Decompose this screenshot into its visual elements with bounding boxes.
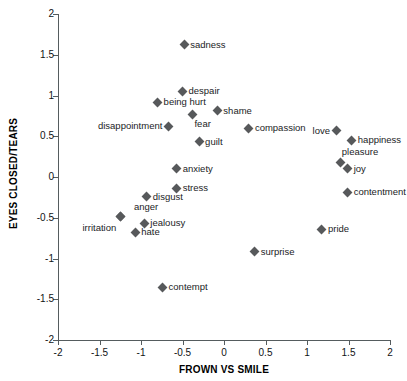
data-point-label: despair — [189, 86, 220, 96]
x-tick-mark — [307, 340, 308, 345]
x-tick-mark — [183, 340, 184, 345]
x-tick-label: 0 — [204, 348, 244, 358]
data-point-marker — [130, 227, 140, 237]
data-point-marker — [153, 97, 163, 107]
data-point-label: sadness — [190, 40, 225, 50]
y-tick-label: 1.5 — [20, 50, 54, 60]
x-tick-mark — [349, 340, 350, 345]
data-point-marker — [343, 188, 353, 198]
data-point-label: happiness — [358, 135, 401, 145]
y-tick-label: 2 — [20, 9, 54, 19]
data-point-marker — [115, 212, 125, 222]
x-tick-label: 1.5 — [329, 348, 369, 358]
data-point-label: anger — [134, 202, 158, 212]
x-axis-title: FROWN VS SMILE — [58, 364, 390, 375]
data-point-marker — [317, 224, 327, 234]
x-tick-label: -1 — [121, 348, 161, 358]
x-tick-mark — [390, 340, 391, 345]
data-point-marker — [172, 164, 182, 174]
data-point-label: being hurt — [164, 97, 206, 107]
data-point-label: irritation — [82, 223, 116, 233]
x-tick-mark — [141, 340, 142, 345]
x-tick-mark — [266, 340, 267, 345]
data-point-marker — [343, 164, 353, 174]
y-tick-label-wrap: -1 — [10, 254, 54, 264]
data-point-label: disappointment — [98, 121, 162, 131]
x-tick-mark — [58, 340, 59, 345]
data-point-label: shame — [223, 106, 252, 116]
data-point-label: pleasure — [342, 147, 378, 157]
y-tick-label: -2 — [20, 335, 54, 345]
y-tick-label-wrap: 2 — [10, 9, 54, 19]
data-point-marker — [163, 122, 173, 132]
data-point-marker — [250, 247, 260, 257]
data-point-marker — [178, 86, 188, 96]
data-point-marker — [179, 40, 189, 50]
scatter-plot: 21.510.50-0.5-1-1.5-2-2-1.5-1-0.500.511.… — [0, 0, 407, 381]
x-tick-mark — [224, 340, 225, 345]
data-point-label: guilt — [205, 137, 222, 147]
y-tick-label-wrap: 1.5 — [10, 50, 54, 60]
data-point-marker — [331, 126, 341, 136]
y-tick-label-wrap: -1.5 — [10, 294, 54, 304]
data-point-marker — [212, 106, 222, 116]
y-tick-label: -0.5 — [20, 213, 54, 223]
y-axis-title: EYES CLOSED/TEARS — [8, 99, 19, 249]
data-point-marker — [347, 135, 357, 145]
data-point-marker — [158, 282, 168, 292]
data-point-label: stress — [183, 183, 208, 193]
x-tick-label: 0.5 — [246, 348, 286, 358]
data-point-label: joy — [354, 164, 366, 174]
data-point-label: anxiety — [183, 164, 213, 174]
y-tick-label: -1.5 — [20, 294, 54, 304]
x-tick-label: -1.5 — [80, 348, 120, 358]
x-tick-mark — [100, 340, 101, 345]
data-point-label: compassion — [255, 123, 306, 133]
y-tick-label-wrap: -2 — [10, 335, 54, 345]
data-point-label: contempt — [169, 282, 208, 292]
data-point-label: surprise — [261, 247, 295, 257]
x-tick-label: -2 — [38, 348, 78, 358]
data-point-label: love — [313, 126, 330, 136]
data-point-label: fear — [194, 119, 210, 129]
y-tick-label: -1 — [20, 254, 54, 264]
x-tick-label: 2 — [370, 348, 407, 358]
y-tick-label: 1 — [20, 91, 54, 101]
data-point-label: hate — [141, 227, 160, 237]
x-tick-label: 1 — [287, 348, 327, 358]
y-tick-label: 0 — [20, 172, 54, 182]
data-point-label: contentment — [354, 187, 406, 197]
y-tick-label: 0.5 — [20, 131, 54, 141]
data-point-marker — [244, 123, 254, 133]
data-point-label: pride — [328, 224, 349, 234]
y-axis-line — [58, 14, 59, 341]
data-point-marker — [194, 137, 204, 147]
x-tick-label: -0.5 — [163, 348, 203, 358]
